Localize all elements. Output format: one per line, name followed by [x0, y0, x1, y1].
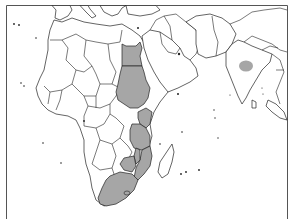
island-ascension — [60, 162, 62, 164]
island-socotra — [177, 93, 179, 95]
island-mauritius — [185, 171, 187, 173]
island-maldives-2 — [214, 117, 215, 118]
island-bioko — [83, 120, 85, 122]
india — [226, 40, 272, 104]
madagascar — [158, 144, 174, 178]
sri-lanka — [252, 100, 256, 108]
island-madeira — [35, 37, 37, 39]
island-bahrain — [178, 53, 180, 55]
island-canaries-2 — [18, 24, 20, 26]
island-cyprus — [137, 27, 139, 29]
europe-iberia-fragment — [52, 6, 72, 21]
island-comoros — [159, 143, 161, 145]
island-andaman-1 — [261, 87, 262, 88]
island-canaries-1 — [13, 23, 15, 25]
europe-balkans-fragment — [100, 6, 126, 17]
island-andaman-2 — [262, 93, 263, 94]
island-rodrigues — [198, 169, 200, 171]
turkey-fragment — [126, 6, 160, 17]
island-cape-verde-2 — [23, 85, 25, 87]
island-cape-verde-1 — [20, 82, 22, 84]
island-lakshadweep — [229, 94, 230, 95]
island-chagos — [217, 137, 218, 138]
india-shaded-region — [239, 61, 253, 72]
island-reunion — [180, 173, 182, 175]
europe-italy-fragment — [80, 6, 96, 19]
thematic-map — [0, 0, 291, 219]
island-maldives-1 — [213, 109, 214, 110]
island-st-helena — [42, 142, 44, 144]
island-seychelles — [181, 131, 183, 133]
se-asia — [266, 100, 287, 120]
